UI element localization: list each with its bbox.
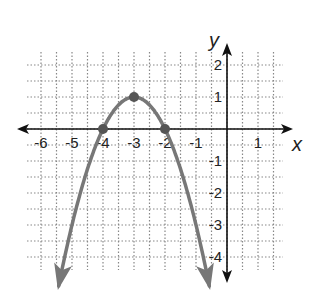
- axes: [17, 43, 293, 283]
- y-tick-label: -1: [209, 152, 222, 169]
- x-tick-label: -3: [127, 134, 140, 151]
- grid: [27, 52, 283, 270]
- parabola-path: [59, 97, 210, 286]
- y-tick-label: -2: [209, 184, 222, 201]
- y-axis-label: y: [207, 29, 220, 51]
- y-tick-label: 2: [214, 56, 222, 73]
- plotted-point: [98, 124, 108, 134]
- x-axis-label: x: [291, 133, 303, 155]
- x-tick-label: -5: [65, 134, 78, 151]
- plotted-point: [129, 92, 139, 102]
- y-tick-label: -4: [209, 248, 222, 265]
- x-tick-label: 1: [254, 134, 262, 151]
- y-tick-label: 1: [214, 88, 222, 105]
- plotted-point: [160, 124, 170, 134]
- x-tick-label: -1: [189, 134, 202, 151]
- coordinate-plane: -6-5-4-3-2-1121-1-2-3-4 x y: [0, 0, 325, 300]
- y-tick-label: -3: [209, 216, 222, 233]
- x-tick-label: -6: [34, 134, 47, 151]
